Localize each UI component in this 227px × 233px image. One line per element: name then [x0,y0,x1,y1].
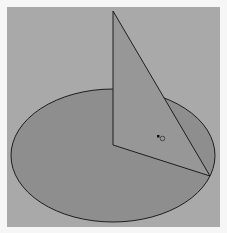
geometry-scene [0,0,227,233]
diagram-frame [0,0,227,233]
